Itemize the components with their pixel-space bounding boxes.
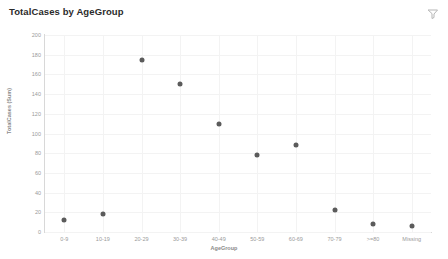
y-axis-tick-label: 120 <box>15 111 41 117</box>
y-axis-tick-label: 180 <box>15 52 41 58</box>
data-point[interactable] <box>62 218 67 223</box>
x-axis-tick-label: 50-59 <box>250 236 264 242</box>
plot-area <box>45 35 431 232</box>
y-axis-tick-label: 100 <box>15 131 41 137</box>
x-axis-title: AgeGroup <box>0 245 448 251</box>
data-point[interactable] <box>293 143 298 148</box>
gridline-vertical <box>64 35 65 232</box>
y-axis-tick-label: 140 <box>15 91 41 97</box>
x-axis-tick-label: 70-79 <box>327 236 341 242</box>
gridline-vertical <box>103 35 104 232</box>
data-point[interactable] <box>216 121 221 126</box>
gridline-vertical <box>257 35 258 232</box>
gridline-vertical <box>296 35 297 232</box>
y-axis-tick-label: 200 <box>15 32 41 38</box>
data-point[interactable] <box>178 82 183 87</box>
x-axis-tick-label: 0-9 <box>60 236 68 242</box>
y-axis-tick-labels: 020406080100120140160180200 <box>12 35 41 232</box>
x-axis-tick-label: >=80 <box>367 236 380 242</box>
data-point[interactable] <box>255 153 260 158</box>
gridline-vertical <box>412 35 413 232</box>
x-axis-tick-label: 40-49 <box>212 236 226 242</box>
data-point[interactable] <box>371 222 376 227</box>
gridline-horizontal <box>45 232 431 233</box>
gridline-vertical <box>219 35 220 232</box>
y-axis-tick-label: 60 <box>15 170 41 176</box>
data-point[interactable] <box>100 212 105 217</box>
gridline-vertical <box>335 35 336 232</box>
y-axis-tick-label: 0 <box>15 229 41 235</box>
x-axis-tick-label: 60-69 <box>289 236 303 242</box>
gridline-vertical <box>142 35 143 232</box>
x-axis-tick-label: 10-19 <box>96 236 110 242</box>
data-point[interactable] <box>332 208 337 213</box>
filter-funnel-icon[interactable] <box>427 6 439 18</box>
y-axis-title: TotalCases (Sum) <box>6 88 12 134</box>
y-axis-tick-label: 80 <box>15 150 41 156</box>
chart-card: TotalCases by AgeGroup 02040608010012014… <box>0 0 448 259</box>
x-axis-tick-label: 30-39 <box>173 236 187 242</box>
x-axis-tick-label: Missing <box>402 236 421 242</box>
y-axis-tick-label: 20 <box>15 209 41 215</box>
x-axis-tick-label: 20-29 <box>134 236 148 242</box>
data-point[interactable] <box>409 224 414 229</box>
gridline-vertical <box>373 35 374 232</box>
y-axis-tick-label: 40 <box>15 190 41 196</box>
gridline-vertical <box>180 35 181 232</box>
y-axis-tick-label: 160 <box>15 71 41 77</box>
page-title: TotalCases by AgeGroup <box>9 6 124 17</box>
data-point[interactable] <box>139 57 144 62</box>
